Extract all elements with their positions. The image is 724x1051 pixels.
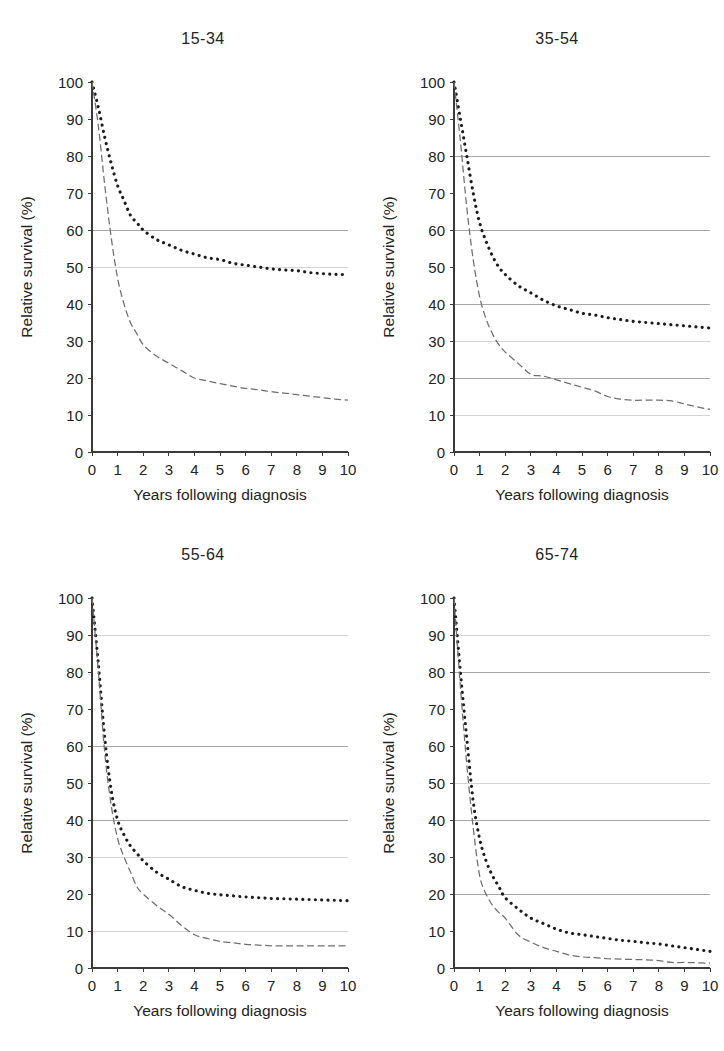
y-axis-title: Relative survival (%) — [380, 196, 397, 337]
x-tick-label: 4 — [552, 461, 560, 478]
y-tick-label: 70 — [66, 185, 83, 202]
x-tick-label: 3 — [165, 461, 173, 478]
y-tick-label: 40 — [66, 812, 83, 829]
panel-55-64: 55-64 0102030405060708090100012345678910… — [0, 530, 362, 1040]
x-tick-label: 1 — [475, 461, 483, 478]
y-tick-label: 30 — [428, 849, 445, 866]
x-tick-label: 9 — [680, 977, 688, 994]
x-tick-label: 7 — [267, 461, 275, 478]
x-tick-label: 5 — [578, 977, 586, 994]
y-tick-label: 100 — [420, 74, 445, 91]
y-tick-label: 30 — [66, 333, 83, 350]
x-tick-label: 4 — [190, 977, 198, 994]
gridlines — [92, 230, 348, 267]
x-axis-title: Years following diagnosis — [133, 486, 307, 503]
y-tick-label: 60 — [428, 222, 445, 239]
x-tick-label: 10 — [340, 977, 357, 994]
y-axis: 0102030405060708090100 — [58, 74, 92, 461]
x-tick-label: 5 — [216, 461, 224, 478]
y-axis: 0102030405060708090100 — [420, 590, 454, 977]
series-line-upper-curve — [92, 598, 348, 901]
panel-65-74: 65-74 0102030405060708090100012345678910… — [362, 530, 724, 1040]
plot-area: 0102030405060708090100012345678910Years … — [362, 14, 724, 524]
x-tick-label: 8 — [655, 461, 663, 478]
x-tick-label: 8 — [293, 461, 301, 478]
y-tick-label: 80 — [66, 664, 83, 681]
y-tick-label: 100 — [420, 590, 445, 607]
x-tick-label: 8 — [293, 977, 301, 994]
x-axis: 012345678910 — [450, 452, 719, 478]
y-tick-label: 20 — [66, 370, 83, 387]
panel-35-54: 35-54 0102030405060708090100012345678910… — [362, 14, 724, 524]
y-tick-label: 40 — [66, 296, 83, 313]
y-tick-label: 10 — [66, 407, 83, 424]
series-line-lower-curve — [92, 82, 348, 400]
x-axis: 012345678910 — [88, 452, 357, 478]
x-tick-label: 4 — [190, 461, 198, 478]
y-tick-label: 80 — [428, 148, 445, 165]
y-tick-label: 90 — [428, 111, 445, 128]
y-tick-label: 10 — [428, 407, 445, 424]
x-tick-label: 10 — [702, 461, 719, 478]
x-tick-label: 2 — [501, 977, 509, 994]
series-group — [454, 598, 710, 963]
x-axis-title: Years following diagnosis — [495, 486, 669, 503]
x-tick-label: 9 — [318, 461, 326, 478]
y-tick-label: 20 — [428, 886, 445, 903]
survival-figure: 15-34 0102030405060708090100012345678910… — [0, 0, 724, 1051]
y-tick-label: 90 — [66, 627, 83, 644]
y-tick-label: 30 — [66, 849, 83, 866]
y-tick-label: 100 — [58, 74, 83, 91]
x-tick-label: 0 — [450, 977, 458, 994]
x-tick-label: 10 — [702, 977, 719, 994]
y-tick-label: 60 — [66, 738, 83, 755]
y-tick-label: 50 — [66, 259, 83, 276]
y-tick-label: 20 — [428, 370, 445, 387]
y-tick-label: 70 — [428, 185, 445, 202]
x-tick-label: 8 — [655, 977, 663, 994]
series-line-upper-curve — [92, 82, 348, 274]
x-tick-label: 2 — [501, 461, 509, 478]
x-tick-label: 3 — [527, 977, 535, 994]
series-line-lower-curve — [454, 82, 710, 409]
y-tick-label: 70 — [428, 701, 445, 718]
y-tick-label: 80 — [428, 664, 445, 681]
y-tick-label: 30 — [428, 333, 445, 350]
y-tick-label: 50 — [428, 259, 445, 276]
y-tick-label: 20 — [66, 886, 83, 903]
y-tick-label: 40 — [428, 296, 445, 313]
series-group — [92, 598, 348, 946]
x-tick-label: 9 — [680, 461, 688, 478]
x-tick-label: 5 — [578, 461, 586, 478]
y-axis-title: Relative survival (%) — [18, 196, 35, 337]
plot-area: 0102030405060708090100012345678910Years … — [362, 530, 724, 1040]
y-tick-label: 90 — [428, 627, 445, 644]
series-line-lower-curve — [454, 598, 710, 963]
y-tick-label: 90 — [66, 111, 83, 128]
series-group — [454, 82, 710, 409]
x-tick-label: 0 — [450, 461, 458, 478]
x-axis: 012345678910 — [88, 968, 357, 994]
y-tick-label: 100 — [58, 590, 83, 607]
x-tick-label: 7 — [267, 977, 275, 994]
y-axis-title: Relative survival (%) — [18, 712, 35, 853]
x-tick-label: 2 — [139, 461, 147, 478]
y-axis: 0102030405060708090100 — [58, 590, 92, 977]
series-line-upper-curve — [454, 82, 710, 328]
x-tick-label: 3 — [165, 977, 173, 994]
x-tick-label: 0 — [88, 977, 96, 994]
plot-area: 0102030405060708090100012345678910Years … — [0, 530, 362, 1040]
y-tick-label: 50 — [428, 775, 445, 792]
y-tick-label: 10 — [66, 923, 83, 940]
y-axis: 0102030405060708090100 — [420, 74, 454, 461]
x-tick-label: 0 — [88, 461, 96, 478]
x-tick-label: 3 — [527, 461, 535, 478]
y-tick-label: 60 — [66, 222, 83, 239]
x-tick-label: 1 — [113, 461, 121, 478]
y-tick-label: 70 — [66, 701, 83, 718]
panel-15-34: 15-34 0102030405060708090100012345678910… — [0, 14, 362, 524]
y-axis-title: Relative survival (%) — [380, 712, 397, 853]
y-tick-label: 80 — [66, 148, 83, 165]
x-tick-label: 1 — [113, 977, 121, 994]
x-tick-label: 2 — [139, 977, 147, 994]
